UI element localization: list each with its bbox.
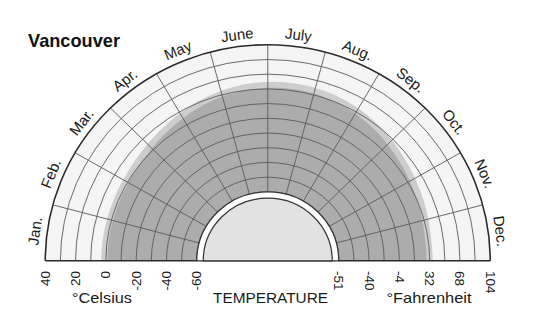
celsius-axis-label: °Celsius — [72, 289, 132, 306]
month-label: Jan. — [24, 216, 45, 246]
polar-plot-area — [45, 45, 490, 261]
fahrenheit-tick-label: 68 — [452, 271, 467, 286]
fahrenheit-tick-label: 32 — [422, 271, 437, 286]
fahrenheit-tick-label: -4 — [392, 271, 407, 283]
celsius-tick-label: 0 — [98, 271, 113, 279]
celsius-tick-label: -40 — [159, 271, 174, 291]
fahrenheit-tick-label: 104 — [483, 271, 498, 294]
celsius-tick-label: -60 — [189, 271, 204, 291]
celsius-tick-label: 20 — [68, 271, 83, 286]
fahrenheit-tick-label: -40 — [362, 271, 377, 291]
fahrenheit-tick-label: -51 — [331, 271, 346, 291]
celsius-tick-label: -20 — [129, 271, 144, 291]
month-label: June — [220, 24, 254, 45]
chart-title: Vancouver — [28, 30, 121, 51]
month-label: July — [284, 24, 313, 44]
celsius-axis-ticks: 40200-20-40-60 — [38, 271, 205, 291]
month-label: Dec. — [490, 215, 511, 248]
temperature-axis-label: TEMPERATURE — [213, 289, 328, 306]
celsius-tick-label: 40 — [38, 271, 53, 286]
fahrenheit-axis-label: °Fahrenheit — [387, 289, 473, 306]
vancouver-temperature-chart: Vancouver Jan.Feb.Mar.Apr.MayJuneJulyAug… — [0, 0, 539, 333]
